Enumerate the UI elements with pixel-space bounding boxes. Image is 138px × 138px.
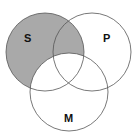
label-s: S (24, 32, 31, 44)
label-p: P (103, 32, 110, 44)
venn-diagram: S P M (0, 0, 138, 138)
label-m: M (64, 112, 73, 124)
